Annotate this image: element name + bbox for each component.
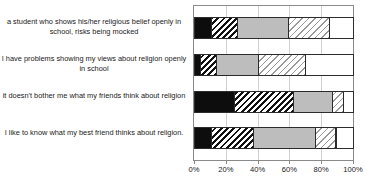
category-label: a student who shows his/her religious be… xyxy=(1,17,187,38)
x-axis-tick-label: 40% xyxy=(243,165,273,175)
x-axis-tick-labels: 0%20%40%60%80%100% xyxy=(0,165,374,179)
bar-segment xyxy=(329,17,354,39)
bar-segment xyxy=(237,17,289,39)
bar-segment xyxy=(343,91,354,113)
x-axis-tick xyxy=(258,161,259,164)
x-axis-tick-label: 0% xyxy=(179,165,209,175)
bar-segment xyxy=(200,54,217,76)
x-axis-tick xyxy=(353,161,354,164)
bar-segment xyxy=(234,91,294,113)
bar-segment xyxy=(253,127,316,149)
x-axis-tick-label: 100% xyxy=(338,165,368,175)
plot-area xyxy=(193,5,354,161)
x-axis-tick-label: 20% xyxy=(211,165,241,175)
category-axis-labels: a student who shows his/her religious be… xyxy=(0,0,190,185)
x-axis-tick xyxy=(321,161,322,164)
bar-segment xyxy=(288,17,330,39)
bar-segment xyxy=(216,54,258,76)
x-axis-tick-label: 80% xyxy=(306,165,336,175)
category-label: it doesn't bother me what my friends thi… xyxy=(1,91,187,101)
bar-segment xyxy=(194,91,235,113)
x-axis-tick-label: 60% xyxy=(274,165,304,175)
bar-segment xyxy=(336,127,354,149)
bar-segment xyxy=(211,127,253,149)
x-axis-tick xyxy=(194,161,195,164)
bar-segment xyxy=(211,17,237,39)
bar-segment xyxy=(194,127,212,149)
bar-segment xyxy=(315,127,337,149)
category-label: I have problems showing my views about r… xyxy=(1,54,187,75)
x-axis-tick xyxy=(289,161,290,164)
bar-segment xyxy=(194,17,212,39)
bar-segment xyxy=(293,91,334,113)
bar-segment xyxy=(305,54,354,76)
x-axis-tick xyxy=(226,161,227,164)
stacked-bar-chart: a student who shows his/her religious be… xyxy=(0,0,374,185)
category-label: I like to know what my best friend think… xyxy=(1,128,187,138)
bar-segment xyxy=(258,54,307,76)
